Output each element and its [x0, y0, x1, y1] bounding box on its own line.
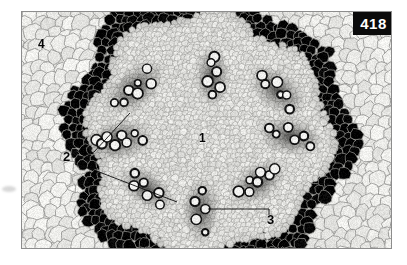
tissue-image: [22, 12, 391, 248]
figure-plate: 1 2 3 4 418: [0, 0, 407, 265]
plate-number-badge: 418: [353, 12, 392, 35]
label-2-vascular-bundle: 2: [63, 150, 70, 163]
edge-smudge: [2, 186, 16, 192]
micrograph-plate: 1 2 3 4 418: [21, 11, 392, 249]
label-3-sclerenchyma: 3: [267, 213, 274, 226]
label-1-pith: 1: [199, 132, 206, 144]
label-4-cortex: 4: [38, 38, 45, 50]
